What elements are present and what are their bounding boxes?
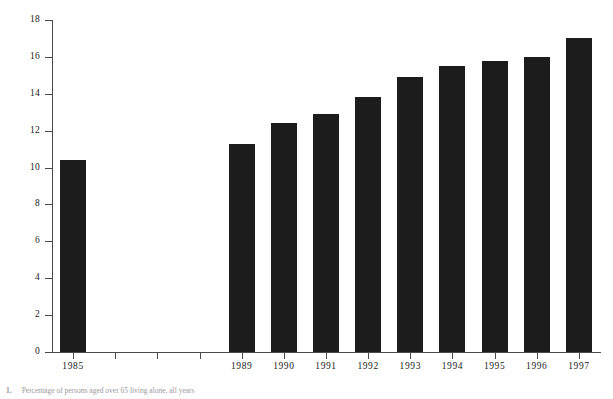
plot-area xyxy=(52,20,600,352)
x-tick-mark xyxy=(410,353,411,359)
figure-container: Percentage 024681012141618 1985198919901… xyxy=(0,0,613,399)
bar xyxy=(355,97,381,352)
y-tick-label: 2 xyxy=(12,310,40,320)
bar xyxy=(229,144,255,352)
bar xyxy=(439,66,465,352)
caption-number: 1. xyxy=(6,386,12,395)
y-tick-label: 16 xyxy=(12,52,40,62)
x-tick-label: 1996 xyxy=(516,362,558,372)
bar xyxy=(482,61,508,352)
y-tick-label: 0 xyxy=(12,347,40,357)
x-tick-mark xyxy=(73,353,74,359)
y-tick-label: 12 xyxy=(12,126,40,136)
x-tick-label: 1991 xyxy=(305,362,347,372)
bar xyxy=(60,160,86,352)
x-tick-label: 1995 xyxy=(474,362,516,372)
x-tick-label: 1985 xyxy=(52,362,94,372)
x-tick-mark xyxy=(157,353,158,359)
x-tick-mark xyxy=(368,353,369,359)
y-tick-label: 8 xyxy=(12,199,40,209)
x-tick-label: 1992 xyxy=(347,362,389,372)
x-tick-mark xyxy=(326,353,327,359)
x-tick-mark xyxy=(452,353,453,359)
bar xyxy=(397,77,423,352)
x-tick-label: 1993 xyxy=(389,362,431,372)
bar xyxy=(271,123,297,352)
x-tick-label: 1989 xyxy=(221,362,263,372)
bar xyxy=(524,57,550,352)
x-tick-mark xyxy=(579,353,580,359)
y-tick-label: 18 xyxy=(12,15,40,25)
figure-caption: 1.Percentage of persons aged over 65 liv… xyxy=(6,386,606,395)
x-tick-mark xyxy=(495,353,496,359)
bar xyxy=(313,114,339,352)
caption-text: Percentage of persons aged over 65 livin… xyxy=(22,386,195,395)
bar xyxy=(566,38,592,352)
x-tick-mark xyxy=(242,353,243,359)
y-tick-label: 6 xyxy=(12,236,40,246)
y-tick-label: 10 xyxy=(12,163,40,173)
x-tick-label: 1994 xyxy=(431,362,473,372)
y-tick-label: 4 xyxy=(12,273,40,283)
x-tick-label: 1990 xyxy=(263,362,305,372)
x-tick-mark xyxy=(115,353,116,359)
x-tick-mark xyxy=(200,353,201,359)
x-tick-mark xyxy=(284,353,285,359)
x-tick-label: 1997 xyxy=(558,362,600,372)
y-tick-label: 14 xyxy=(12,89,40,99)
x-tick-mark xyxy=(537,353,538,359)
y-tick-mark xyxy=(45,352,53,353)
